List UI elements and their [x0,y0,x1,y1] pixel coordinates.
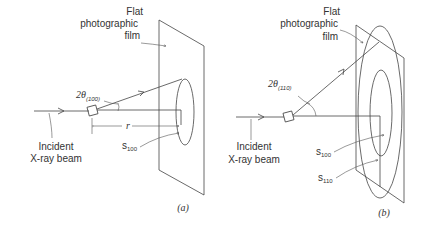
film-label-line1: Flat [323,6,340,17]
beam-label-line2: X-ray beam [228,154,280,165]
diffracted-beam [293,42,379,115]
xray-diffraction-diagram: 2θ(100) r s100 Flat photographic film In… [0,0,422,230]
film-label-line2: photographic [80,18,138,29]
crystal-icon [87,105,98,116]
crystal-icon [283,111,294,122]
angle-leader [298,96,310,104]
beam-leader [49,113,52,138]
film-label-line3: film [124,30,140,41]
diffraction-ring-100 [176,79,194,145]
angle-arc [307,103,316,116]
beam-label-line2: X-ray beam [30,153,82,164]
ring-label-s100: s100 [316,146,332,158]
beam-label-line1: Incident [236,141,271,152]
film-label-line2: photographic [280,18,338,29]
panel-a: 2θ(100) r s100 Flat photographic film In… [30,6,204,214]
s110-leader [336,160,378,178]
distance-label: r [126,120,130,131]
beam-label-line1: Incident [38,141,73,152]
panel-b: 2θ(110) s100 s110 Flat photographic film… [228,6,404,219]
caption-a: (a) [177,202,189,214]
film-label-line1: Flat [126,6,143,17]
s100-leader [140,133,179,147]
angle-label: 2θ(100) [76,89,100,102]
ring-label-s100: s100 [122,140,138,152]
caption-b: (b) [378,207,390,219]
angle-label: 2θ(110) [268,78,291,91]
film-label-line3: film [322,31,338,42]
film-leader [141,43,166,46]
diffraction-ring-100 [370,70,392,156]
film-leader [340,30,363,43]
ring-label-s110: s110 [318,172,333,184]
diffracted-beam [97,79,182,109]
